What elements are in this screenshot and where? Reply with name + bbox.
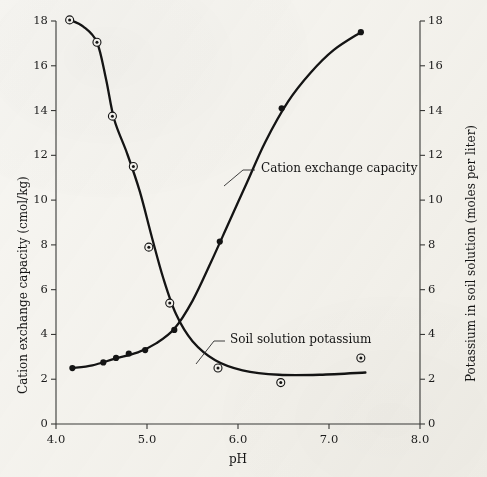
plot-canvas bbox=[0, 0, 487, 477]
y-right-tick-label: 0 bbox=[428, 416, 456, 430]
data-point-center bbox=[359, 356, 362, 359]
potassium-annotation: Soil solution potassium bbox=[230, 332, 371, 346]
data-point-center bbox=[279, 381, 282, 384]
data-point-center bbox=[147, 246, 150, 249]
y-right-tick-label: 16 bbox=[428, 58, 456, 72]
data-point-filled bbox=[100, 359, 106, 365]
x-tick-label: 8.0 bbox=[398, 432, 442, 446]
data-point-center bbox=[111, 115, 114, 118]
data-point-center bbox=[95, 41, 98, 44]
data-point-filled bbox=[279, 105, 285, 111]
y-left-tick-label: 14 bbox=[6, 103, 48, 117]
x-tick-label: 5.0 bbox=[125, 432, 169, 446]
x-tick-label: 7.0 bbox=[307, 432, 351, 446]
y-right-tick-label: 14 bbox=[428, 103, 456, 117]
x-tick-label: 6.0 bbox=[216, 432, 260, 446]
y-right-tick-label: 18 bbox=[428, 13, 456, 27]
figure-container: 0246810121416180246810121416184.05.06.07… bbox=[0, 0, 487, 477]
data-point-filled bbox=[358, 29, 364, 35]
y-right-tick-label: 4 bbox=[428, 326, 456, 340]
data-point-filled bbox=[171, 327, 177, 333]
data-point-filled bbox=[142, 347, 148, 353]
data-point-filled bbox=[69, 365, 75, 371]
y-right-tick-label: 10 bbox=[428, 192, 456, 206]
x-tick-label: 4.0 bbox=[34, 432, 78, 446]
y-left-tick-label: 18 bbox=[6, 13, 48, 27]
y-axis-left-title: Cation exchange capacity (cmol/kg) bbox=[16, 176, 30, 394]
data-point-center bbox=[168, 302, 171, 305]
potassium-annotation-leader bbox=[196, 341, 225, 364]
series-curve bbox=[70, 20, 366, 375]
data-point-filled bbox=[126, 350, 132, 356]
y-right-tick-label: 12 bbox=[428, 147, 456, 161]
data-point-filled bbox=[113, 355, 119, 361]
x-axis-title: pH bbox=[198, 452, 278, 466]
y-left-tick-label: 12 bbox=[6, 147, 48, 161]
y-left-tick-label: 0 bbox=[6, 416, 48, 430]
y-left-tick-label: 16 bbox=[6, 58, 48, 72]
data-point-center bbox=[68, 18, 71, 21]
y-right-tick-label: 8 bbox=[428, 237, 456, 251]
y-right-tick-label: 2 bbox=[428, 371, 456, 385]
y-axis-right-title: Potassium in soil solution (moles per li… bbox=[464, 125, 478, 382]
data-point-center bbox=[132, 165, 135, 168]
y-right-tick-label: 6 bbox=[428, 282, 456, 296]
series-curve bbox=[72, 32, 360, 368]
data-point-filled bbox=[217, 238, 223, 244]
cec-annotation: Cation exchange capacity bbox=[261, 161, 417, 175]
data-point-center bbox=[216, 367, 219, 370]
